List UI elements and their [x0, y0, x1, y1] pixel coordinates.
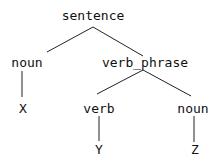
edge-verb-phrase-verb [97, 70, 143, 94]
tree-edges [0, 0, 221, 167]
node-z: Z [191, 143, 199, 157]
node-noun-object: noun [177, 102, 208, 116]
node-verb: verb [83, 102, 114, 116]
node-y: Y [95, 143, 103, 157]
node-noun: noun [11, 56, 42, 70]
node-verb-phrase: verb_phrase [102, 56, 188, 70]
node-x: X [19, 102, 27, 116]
edge-sentence-noun [47, 27, 93, 52]
edge-verb-phrase-noun [143, 70, 191, 96]
edge-sentence-verb-phrase [93, 27, 143, 56]
node-sentence: sentence [62, 9, 125, 23]
